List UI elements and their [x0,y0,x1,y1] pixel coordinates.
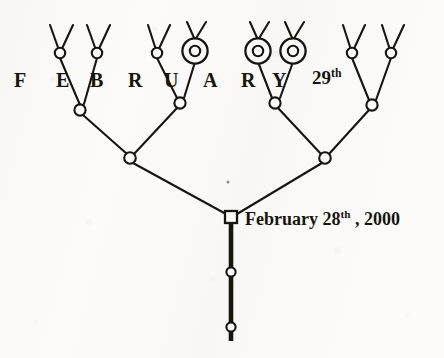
fork-stems-leaf-4 [187,22,206,40]
leaf-node-3 [152,48,162,58]
leaf-node-1 [55,48,65,58]
internal-node-6 [319,152,331,164]
leaf-node-4-core [190,46,200,56]
month-letter-f: F [14,70,26,90]
month-letter-b: B [90,70,103,90]
leaf-node-6-core [288,46,298,56]
edge-n3-n6 [278,108,321,154]
edge-leaf5-n3 [258,62,272,98]
fork-stems-leaf-6 [285,22,304,40]
edge-leaf7-n4 [352,58,369,100]
internal-node-5 [124,152,136,164]
root-node-square [225,211,237,223]
leap-day-ordinal: 29th [312,68,341,87]
leap-day-ordinal-suffix: th [331,67,341,80]
tree-trunk [226,221,235,341]
trunk-node-lower [226,322,235,331]
root-date-year: , 2000 [350,209,400,229]
leap-day-tree-figure: F E B R U A R Y 29th February 28th , 200… [0,0,444,358]
trunk-node-upper [226,267,235,276]
edge-leaf4-n2 [184,62,195,98]
leaf-node-4-ringed [182,38,207,63]
internal-node-3 [269,97,280,108]
month-letter-r-first: R [128,70,142,90]
tree-nodes [55,38,396,223]
internal-node-1 [74,104,85,115]
binary-tree-drawing [0,0,444,358]
leaf-node-2 [92,48,102,58]
edge-n6-root [237,163,322,214]
leaf-node-6-ringed [280,38,305,63]
internal-node-2 [174,97,185,108]
edge-n1-n5 [83,115,127,154]
leaf-node-7 [347,48,357,58]
month-letter-u: U [164,70,178,90]
internal-node-4 [366,99,377,110]
leap-day-number: 29 [312,67,331,88]
edge-n2-n5 [134,108,177,154]
month-letter-r-second: R [241,70,255,90]
month-letter-e: E [56,70,69,90]
leaf-node-8 [386,48,396,58]
leaf-node-5-core [253,46,263,56]
root-date-prefix: February 28 [245,209,340,229]
root-date-ordinal: th [340,208,350,220]
leaf-node-5-ringed [245,38,270,63]
paper-speck [227,181,230,184]
root-date-caption: February 28th , 2000 [245,210,400,228]
edge-n4-n6 [329,110,369,154]
edge-n5-root [133,163,226,214]
fork-stems-leaf-5 [250,22,269,40]
month-letter-a: A [203,70,217,90]
month-letter-y: Y [272,70,286,90]
edge-leaf8-n4 [376,58,391,100]
